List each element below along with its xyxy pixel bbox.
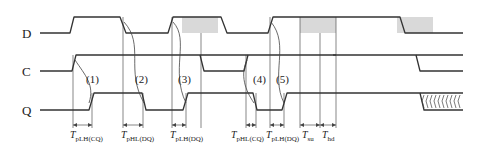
arrowhead xyxy=(246,123,250,127)
signal-c-waveform-low xyxy=(200,55,248,71)
hatch-stroke xyxy=(426,95,428,108)
timing-label-tplh-dq-2: TpLH(DQ) xyxy=(266,129,300,143)
arrowhead xyxy=(316,123,320,127)
timing-label-tphl-cq: TpHL(CQ) xyxy=(231,129,264,143)
arrowhead xyxy=(139,123,143,127)
hatch-stroke xyxy=(430,95,432,108)
event-label-1: (1) xyxy=(86,73,99,86)
reference-lines xyxy=(73,17,336,128)
signal-c-waveform-end xyxy=(416,55,463,71)
hatch-stroke xyxy=(454,95,456,108)
hatch-stroke xyxy=(442,95,444,108)
interval-arrows xyxy=(73,123,336,127)
arrowhead xyxy=(270,123,274,127)
arrowhead xyxy=(280,123,284,127)
arrowhead xyxy=(88,123,92,127)
timing-label-tphl-dq: TpHL(DQ) xyxy=(121,129,155,143)
arrow-2 xyxy=(124,22,144,103)
arrowhead xyxy=(320,123,324,127)
timing-label-thd: Thd xyxy=(322,129,335,143)
signal-label-c: C xyxy=(22,64,31,79)
timing-label-tplh-dq: TpLH(DQ) xyxy=(170,129,204,143)
event-label-3: (3) xyxy=(178,73,191,86)
hatch-stroke xyxy=(438,95,440,108)
hatch-stroke xyxy=(458,95,460,108)
timing-diagram: D C Q (1) (2) (3) (4) (5) TpLH(CQ) TpHL(… xyxy=(0,0,483,151)
hatch-stroke xyxy=(450,95,452,108)
arrowhead xyxy=(182,123,186,127)
event-label-4: (4) xyxy=(253,73,266,86)
shade-region-1 xyxy=(182,17,218,33)
signal-label-q: Q xyxy=(22,103,32,118)
arrowhead xyxy=(172,123,176,127)
arrowhead xyxy=(300,123,304,127)
arrow-5 xyxy=(271,22,284,103)
arrow-3 xyxy=(173,22,186,103)
hatch-stroke xyxy=(446,95,448,108)
signal-c-waveform xyxy=(40,55,463,71)
event-label-5: (5) xyxy=(276,73,289,86)
signal-q-waveform xyxy=(40,93,420,110)
event-label-2: (2) xyxy=(135,73,148,86)
hatch-stroke xyxy=(434,95,436,108)
signal-label-d: D xyxy=(22,26,31,41)
timing-label-tsu: Tsu xyxy=(302,129,314,143)
arrowhead xyxy=(252,123,256,127)
shade-region-2 xyxy=(300,17,336,33)
arrowhead xyxy=(73,123,77,127)
arrowhead xyxy=(332,123,336,127)
arrowhead xyxy=(123,123,127,127)
timing-label-tplh-cq: TpLH(CQ) xyxy=(70,129,103,143)
q-undefined-region xyxy=(420,93,463,110)
